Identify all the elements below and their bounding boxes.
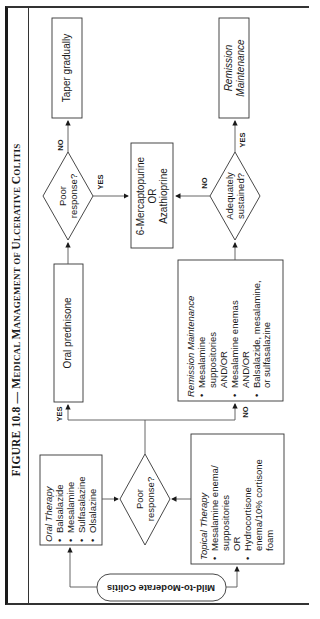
item-line: or sulfasalazine bbox=[263, 265, 274, 388]
item-line: AND/OR bbox=[241, 265, 252, 388]
remission-list-node: Remission Maintenance Mesalamine supposi… bbox=[186, 265, 273, 397]
decision-3-line2: sustained? bbox=[235, 172, 246, 220]
immunomod-line2: OR bbox=[146, 157, 158, 235]
topical-therapy-node: Topical Therapy Mesalamine enema/ suppos… bbox=[199, 438, 275, 560]
remission-list-item: Mesalamine suppositories AND/OR bbox=[197, 265, 230, 397]
edge-label-d3-no: NO bbox=[201, 177, 210, 188]
taper-label: Taper gradually bbox=[61, 34, 72, 102]
topical-therapy-item: Mesalamine enema/ suppositories OR bbox=[210, 438, 243, 560]
decision-3-line1: Adequately bbox=[224, 172, 235, 220]
decision-3-text: Adequately sustained? bbox=[224, 172, 247, 220]
decision-2-text: Poor response? bbox=[57, 174, 80, 218]
immunomod-line3: Azathioprine bbox=[158, 157, 170, 235]
item-line: Hydrocortisone bbox=[242, 438, 253, 551]
remission-final-line2: Maintenance bbox=[234, 39, 246, 96]
edge-label-d1-yes: YES bbox=[56, 406, 65, 421]
oral-therapy-item: Olsalazine bbox=[87, 458, 98, 542]
decision-1-text: Poor response? bbox=[134, 477, 157, 521]
oral-prednisone-node: Oral prednisone bbox=[62, 297, 74, 368]
edge-label-d1-no: NO bbox=[242, 406, 251, 417]
remission-final-line1: Remission bbox=[223, 39, 235, 96]
remission-list-item: Balsalazide, mesalamine, or sulfasalazin… bbox=[252, 265, 274, 397]
start-node: Mild-to-Moderate Colitis bbox=[107, 583, 215, 594]
remission-final-node: Remission Maintenance bbox=[223, 39, 246, 96]
decision-1-line1: Poor bbox=[134, 477, 145, 521]
oral-therapy-node: Oral Therapy Balsalazide Mesalamine Sulf… bbox=[44, 458, 99, 542]
decision-2-line1: Poor bbox=[57, 174, 68, 218]
immunomod-line1: 6-Mercaptopurine bbox=[135, 157, 147, 235]
start-label: Mild-to-Moderate Colitis bbox=[107, 583, 215, 594]
item-line: Mesalamine enemas bbox=[230, 265, 241, 388]
decision-2-line2: response? bbox=[68, 174, 79, 218]
immunomod-node: 6-Mercaptopurine OR Azathioprine bbox=[135, 157, 170, 235]
item-line: enema/10% cortisone bbox=[253, 438, 264, 551]
oral-prednisone-label: Oral prednisone bbox=[62, 297, 73, 368]
item-line: suppositories bbox=[221, 438, 232, 551]
edge-label-d2-yes: YES bbox=[97, 174, 106, 189]
topical-therapy-item: Hydrocortisone enema/10% cortisone foam bbox=[242, 438, 275, 560]
remission-list-item: Mesalamine enemas AND/OR bbox=[230, 265, 252, 397]
edge-label-d2-no: NO bbox=[57, 139, 66, 150]
item-line: foam bbox=[264, 438, 275, 551]
taper-node: Taper gradually bbox=[61, 34, 73, 102]
edge-label-d3-yes: YES bbox=[239, 132, 248, 147]
decision-1-line2: response? bbox=[145, 477, 156, 521]
